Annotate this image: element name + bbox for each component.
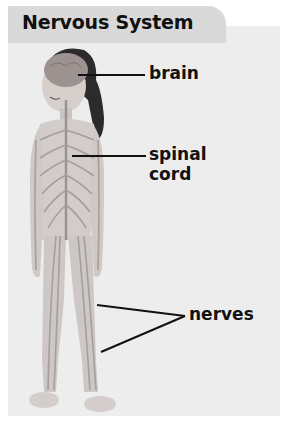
label-nerves: nerves bbox=[189, 304, 254, 324]
nerves-leader-line-lower bbox=[101, 316, 185, 352]
label-spinal-cord-line1: spinal bbox=[149, 144, 207, 164]
label-brain: brain bbox=[149, 63, 199, 83]
leader-lines bbox=[0, 0, 285, 422]
nerves-leader-line-upper bbox=[97, 305, 185, 316]
label-spinal-cord-line2: cord bbox=[149, 164, 191, 184]
